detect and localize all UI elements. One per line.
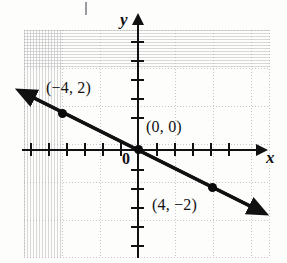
x-axis-tick xyxy=(30,143,32,156)
x-axis-tick xyxy=(210,143,212,156)
x-axis-tick xyxy=(174,143,176,156)
coordinate-plane-figure: (−4, 2) (0, 0) (4, −2) 0 y x xyxy=(0,0,287,263)
y-axis-label: y xyxy=(120,10,128,30)
x-axis-tick xyxy=(84,143,86,156)
point-label-neg4-2: (−4, 2) xyxy=(46,79,91,97)
y-axis-tick xyxy=(131,79,144,81)
x-axis-label: x xyxy=(266,148,275,168)
graph-grid xyxy=(24,30,270,258)
point-label-4-neg2: (4, −2) xyxy=(152,196,197,214)
x-axis-tick xyxy=(192,143,194,156)
x-axis-tick xyxy=(102,143,104,156)
y-axis-tick xyxy=(131,169,144,171)
x-axis-tick xyxy=(156,143,158,156)
y-axis-tick xyxy=(131,226,144,228)
data-point xyxy=(208,183,217,192)
y-axis-tick xyxy=(131,98,144,100)
gridline-horizontal xyxy=(24,30,270,31)
gridline-horizontal xyxy=(24,144,270,145)
data-point xyxy=(58,109,67,118)
y-axis-tick xyxy=(131,117,144,119)
x-axis-tick xyxy=(66,143,68,156)
y-axis-tick xyxy=(131,207,144,209)
y-axis xyxy=(137,22,139,258)
scan-artifact-mark xyxy=(85,2,87,15)
gridline-horizontal xyxy=(24,68,270,69)
gridline-horizontal xyxy=(24,220,270,221)
x-axis-tick xyxy=(48,143,50,156)
x-axis-tick xyxy=(228,143,230,156)
point-label-0-0: (0, 0) xyxy=(146,118,182,136)
y-axis-tick xyxy=(131,60,144,62)
y-axis-tick xyxy=(131,41,144,43)
gridline-horizontal xyxy=(24,106,270,107)
gridline-horizontal xyxy=(24,257,270,258)
data-point xyxy=(134,145,143,154)
y-axis-tick xyxy=(131,245,144,247)
gridline-horizontal xyxy=(24,182,270,183)
origin-label: 0 xyxy=(122,150,130,168)
y-axis-arrow-icon xyxy=(132,13,144,25)
y-axis-tick xyxy=(131,188,144,190)
